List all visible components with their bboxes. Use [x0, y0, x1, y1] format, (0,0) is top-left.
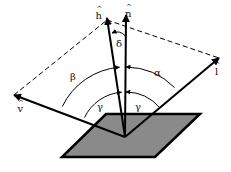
label-n: n [125, 8, 132, 19]
label-l: l [215, 66, 218, 77]
label-alpha: α [154, 67, 161, 78]
arc-gamma-right [126, 92, 160, 108]
label-v: v [17, 103, 24, 114]
reflection-diagram: ^ h ^ n ^ v ^ l δ β α γ γ [0, 0, 231, 172]
label-h: h [96, 10, 103, 21]
label-gamma-right: γ [135, 101, 141, 112]
dashed-line-v-h [14, 20, 107, 95]
arc-alpha [126, 67, 175, 88]
vector-n [125, 15, 126, 137]
label-beta: β [70, 71, 76, 82]
label-delta: δ [116, 38, 122, 49]
dashed-line-h-l [107, 20, 219, 58]
label-gamma-left: γ [97, 101, 103, 112]
arc-delta [112, 32, 126, 36]
